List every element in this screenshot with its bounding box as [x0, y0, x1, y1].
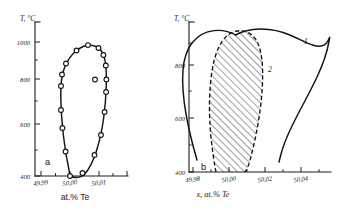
- panel-a-x-ticklabel-50-01: 50,01: [91, 178, 107, 187]
- panel-b-y-ticklabel-400: 400: [175, 169, 186, 176]
- panel-b-x-axis-title: x, at.% Te: [195, 190, 229, 199]
- panel-a-plot: T, °C 1000 800 600 400 49,99 50,00 50,01…: [0, 0, 172, 212]
- panel-a-x-ticklabel-50-00: 50,00: [62, 178, 78, 187]
- figure-container: T, °C 1000 800 600 400 49,99 50,00 50,01…: [0, 0, 343, 212]
- panel-b-label: b: [201, 162, 206, 172]
- panel-b-x-ticklabel-50-00: 50,00: [221, 174, 237, 183]
- panel-a-y-axis-title: T, °C: [20, 14, 35, 23]
- panel-a: T, °C 1000 800 600 400 49,99 50,00 50,01…: [0, 0, 172, 212]
- panel-b-x-ticklabel-50-02: 50,02: [257, 174, 273, 183]
- panel-a-y-ticklabel-600: 600: [20, 121, 31, 128]
- panel-b-curve-label-1: 1: [304, 37, 308, 46]
- panel-a-y-ticks: [35, 42, 40, 176]
- panel-b-y-axis-title: T, °C: [174, 14, 189, 23]
- panel-b-x-ticklabel-50-04: 50,04: [293, 174, 309, 183]
- panel-a-y-ticklabel-400: 400: [20, 173, 31, 180]
- panel-b: T, °C 800 600 400 49,98 50,00 50,02 50,0…: [171, 0, 343, 212]
- panel-b-y-ticklabel-600: 600: [175, 115, 186, 122]
- panel-a-x-ticklabel-49-99: 49,99: [33, 178, 49, 187]
- panel-b-x-ticks: [193, 167, 319, 172]
- panel-b-plot: T, °C 800 600 400 49,98 50,00 50,02 50,0…: [171, 0, 343, 212]
- panel-b-x-ticklabel-49-98: 49,98: [185, 174, 201, 183]
- panel-b-y-ticks: [189, 43, 194, 172]
- panel-b-curve-label-2: 2: [268, 65, 272, 74]
- panel-a-y-ticklabel-800: 800: [20, 76, 31, 83]
- panel-a-label: a: [45, 157, 51, 167]
- panel-a-y-ticklabel-1000: 1000: [17, 39, 31, 46]
- panel-a-x-axis-title: at.% Te: [61, 192, 90, 202]
